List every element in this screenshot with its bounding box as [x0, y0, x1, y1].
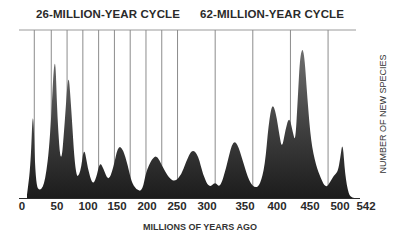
x-axis-label: MILLIONS OF YEARS AGO: [143, 222, 257, 232]
x-tick-label: 200: [137, 200, 156, 212]
x-tick-label: 450: [300, 200, 319, 212]
x-tick-label: 542: [356, 200, 375, 212]
x-tick-label: 350: [235, 200, 254, 212]
x-tick-label: 250: [167, 200, 186, 212]
x-tick-label: 0: [19, 200, 25, 212]
x-tick-label: 500: [330, 200, 349, 212]
y-axis-label: NUMBER OF NEW SPECIES: [378, 54, 388, 173]
x-tick-label: 50: [51, 200, 64, 212]
x-tick-label: 150: [107, 200, 126, 212]
x-tick-label: 100: [78, 200, 97, 212]
x-tick-label: 400: [267, 200, 286, 212]
x-tick-label: 300: [197, 200, 216, 212]
species-area-series: [27, 50, 356, 198]
